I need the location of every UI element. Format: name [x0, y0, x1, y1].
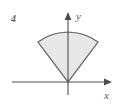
exercise-number-label: 4	[10, 13, 16, 24]
y-axis-label: y	[75, 10, 81, 22]
math-figure-svg: 4 y x	[0, 0, 121, 109]
x-axis-arrow-icon	[104, 79, 112, 86]
x-axis-label: x	[103, 89, 109, 101]
figure-container: 4 y x	[0, 0, 121, 109]
y-axis-arrow-icon	[65, 12, 72, 20]
